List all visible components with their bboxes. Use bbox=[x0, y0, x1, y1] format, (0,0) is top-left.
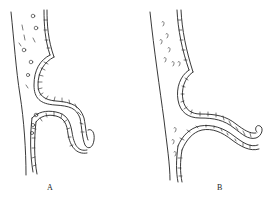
panel-b-drawing bbox=[138, 0, 276, 203]
panel-label-b: B bbox=[217, 183, 222, 192]
panel-a: A bbox=[0, 0, 138, 203]
panel-b: B bbox=[138, 0, 276, 203]
panel-label-a: A bbox=[47, 183, 53, 192]
panel-a-drawing bbox=[0, 0, 138, 203]
